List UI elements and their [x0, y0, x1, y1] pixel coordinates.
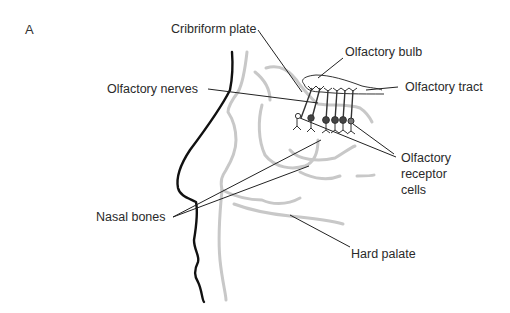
label-olfactory-receptor-cells: Olfactory receptor cells [401, 150, 451, 198]
maxilla-contour [219, 190, 226, 300]
axon-6 [351, 90, 353, 122]
panel-label: A [25, 22, 34, 37]
label-line: Olfactory [401, 150, 451, 166]
axon-terminals [308, 86, 357, 91]
leader-olfactory-bulb [318, 58, 343, 78]
cell-body-5 [340, 117, 347, 124]
hard-palate-bone [234, 204, 343, 224]
leader-nasal-bones-1 [173, 140, 321, 217]
dendrite-1 [293, 118, 301, 130]
label-nasal-bones: Nasal bones [96, 210, 166, 225]
label-olfactory-nerves: Olfactory nerves [107, 82, 198, 97]
nasal-floor [222, 190, 300, 204]
cell-body-2 [308, 115, 314, 121]
label-cribriform-plate: Cribriform plate [171, 22, 256, 37]
cell-body-6 [348, 118, 354, 124]
cell-body-3 [323, 117, 330, 124]
posterior-fragment [357, 175, 374, 176]
receptor-cell-bodies [295, 113, 354, 124]
olfactory-bulb-shape [303, 75, 385, 94]
label-olfactory-bulb: Olfactory bulb [345, 45, 422, 60]
cell-body-4 [332, 117, 339, 124]
label-hard-palate: Hard palate [351, 247, 416, 262]
inferior-concha [300, 172, 340, 179]
leader-receptor-cells-2 [353, 124, 394, 154]
label-line: receptor [401, 166, 451, 182]
nasal-bone-inner-contour [221, 52, 247, 190]
leader-nasal-bones-2 [173, 166, 309, 217]
superior-concha [290, 146, 355, 160]
label-olfactory-tract: Olfactory tract [405, 80, 483, 95]
cell-body-1 [295, 113, 300, 118]
label-line: cells [401, 182, 451, 198]
